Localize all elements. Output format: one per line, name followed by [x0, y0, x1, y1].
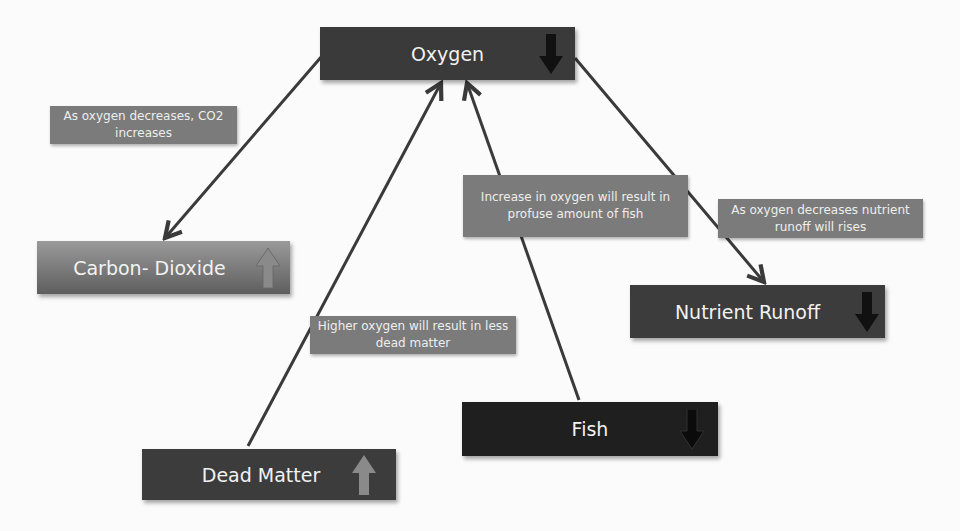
note-oxygen-nutrient-runoff: As oxygen decreases nutrient runoff will… [718, 199, 923, 238]
arrow-up-icon [352, 455, 376, 495]
node-oxygen-label: Oxygen [411, 43, 484, 65]
node-nutrient-runoff[interactable]: Nutrient Runoff [630, 285, 885, 338]
arrow-up-icon [256, 248, 280, 288]
node-dead-matter[interactable]: Dead Matter [142, 449, 396, 500]
node-carbon-dioxide-label: Carbon- Dioxide [73, 257, 226, 279]
connector-oxygen-to-nutrient-runoff [575, 58, 764, 282]
node-fish[interactable]: Fish [462, 402, 718, 456]
node-oxygen[interactable]: Oxygen [320, 27, 575, 80]
node-fish-label: Fish [572, 418, 609, 440]
note-oxygen-carbon-dioxide: As oxygen decreases, CO2 increases [50, 106, 237, 144]
note-dead-matter-oxygen: Higher oxygen will result in less dead m… [310, 316, 516, 354]
connector-oxygen-to-carbon-dioxide [165, 56, 322, 238]
arrow-down-icon [855, 292, 879, 332]
node-dead-matter-label: Dead Matter [202, 464, 321, 486]
note-fish-oxygen: Increase in oxygen will result in profus… [463, 175, 688, 237]
arrow-down-icon [539, 34, 563, 74]
node-nutrient-runoff-label: Nutrient Runoff [675, 301, 820, 323]
arrow-down-icon [680, 409, 704, 449]
node-carbon-dioxide[interactable]: Carbon- Dioxide [37, 241, 290, 294]
